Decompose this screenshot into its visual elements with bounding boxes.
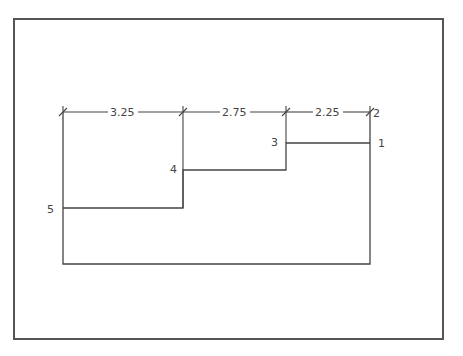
point-label: 5 [47,203,54,216]
point-label: 1 [378,137,385,150]
profile-outline [63,112,370,264]
step-profile [63,143,370,208]
dimension-label: 2.25 [315,106,340,119]
diagram-canvas: 3.25 2.75 2.25 1 2 3 4 5 [0,0,463,356]
point-label: 4 [170,163,177,176]
dimension-label: 3.25 [110,106,135,119]
point-label: 3 [271,136,278,149]
point-label: 2 [373,107,380,120]
dimension-label: 2.75 [222,106,247,119]
